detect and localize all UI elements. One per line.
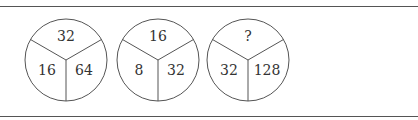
circle-top-value: 32 bbox=[57, 28, 75, 44]
puzzle-circle-1: 32 16 64 bbox=[25, 19, 107, 101]
number-puzzle: 32 16 64 16 8 32 ? 32 128 bbox=[0, 0, 418, 120]
circle-left-value: 16 bbox=[38, 62, 56, 78]
circle-right-value: 128 bbox=[254, 62, 281, 78]
divider-line bbox=[248, 40, 284, 61]
divider-line bbox=[213, 40, 249, 61]
circle-left-value: 32 bbox=[220, 62, 238, 78]
circle-right-value: 64 bbox=[75, 62, 93, 78]
circle-top-value: 16 bbox=[149, 28, 167, 44]
puzzle-circle-2: 16 8 32 bbox=[117, 19, 199, 101]
circle-right-value: 32 bbox=[167, 62, 185, 78]
circle-left-value: 8 bbox=[135, 62, 144, 78]
puzzle-circle-3: ? 32 128 bbox=[207, 19, 289, 101]
circle-top-value-unknown: ? bbox=[244, 28, 252, 44]
